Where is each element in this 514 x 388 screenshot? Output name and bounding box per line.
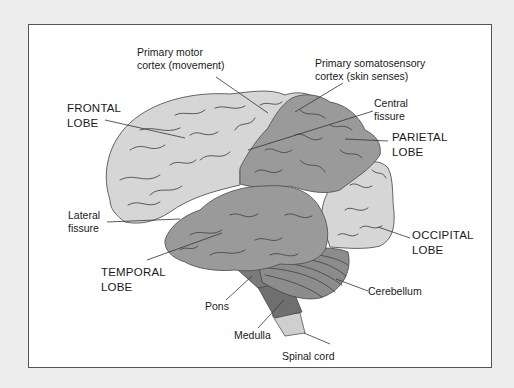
label-pons: Pons: [205, 300, 229, 313]
label-primary-motor-cortex: Primary motor cortex (movement): [137, 46, 225, 72]
leader-cerebellum: [336, 279, 368, 291]
label-temporal-lobe: TEMPORAL LOBE: [101, 265, 166, 295]
label-primary-somatosensory-cortex: Primary somatosensory cortex (skin sense…: [315, 57, 425, 83]
leader-spinal-cord: [304, 333, 330, 344]
label-cerebellum: Cerebellum: [368, 285, 422, 298]
label-lateral-fissure: Lateral fissure: [68, 209, 100, 235]
label-parietal-lobe: PARIETAL LOBE: [392, 130, 448, 160]
label-occipital-lobe: OCCIPITAL LOBE: [412, 228, 474, 258]
label-spinal-cord: Spinal cord: [282, 350, 335, 363]
label-frontal-lobe: FRONTAL LOBE: [67, 101, 121, 131]
label-medulla: Medulla: [234, 329, 271, 342]
leader-pons: [226, 276, 252, 300]
label-central-fissure: Central fissure: [374, 97, 408, 123]
